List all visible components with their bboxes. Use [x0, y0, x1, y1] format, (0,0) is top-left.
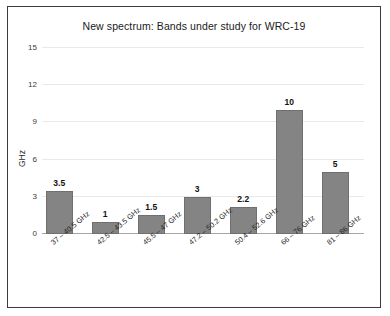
bar-value-label: 3 — [184, 184, 211, 194]
bar-slot: 1 — [88, 48, 134, 234]
y-axis-tick-label: 9 — [33, 117, 37, 126]
y-axis-tick-label: 12 — [28, 80, 37, 89]
bar-slot: 3.5 — [42, 48, 88, 234]
y-axis-tick-label: 15 — [28, 43, 37, 52]
bar-value-label: 2.2 — [230, 194, 257, 204]
y-axis-tick-label: 0 — [33, 229, 37, 238]
bar-slot: 1.5 — [134, 48, 180, 234]
bar-slot: 2.2 — [226, 48, 272, 234]
bar-value-label: 5 — [322, 159, 349, 169]
y-axis-tick-label: 6 — [33, 154, 37, 163]
y-axis-tick-label: 3 — [33, 191, 37, 200]
y-axis-title: GHz — [17, 150, 27, 167]
bar-slot: 10 — [272, 48, 318, 234]
bar-slot: 5 — [318, 48, 364, 234]
bar-value-label: 3.5 — [46, 178, 73, 188]
chart-card: New spectrum: Bands under study for WRC-… — [7, 6, 381, 308]
bar-value-label: 1 — [92, 209, 119, 219]
chart-title: New spectrum: Bands under study for WRC-… — [8, 20, 380, 32]
bar-value-label: 10 — [276, 97, 303, 107]
plot-area: 03691215 3.511.532.2105 — [42, 48, 364, 234]
bar-slot: 3 — [180, 48, 226, 234]
bar[interactable] — [276, 110, 303, 234]
